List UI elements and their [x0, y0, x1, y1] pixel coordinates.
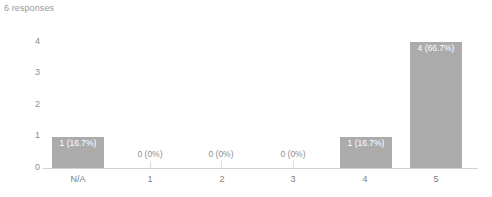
x-axis-label-2: 2	[196, 174, 248, 184]
bar-value-na: 1 (16.7%)	[52, 139, 104, 148]
x-axis-label-na: N/A	[52, 174, 104, 184]
x-axis-line	[43, 168, 478, 169]
bar-value-4: 1 (16.7%)	[340, 139, 392, 148]
chart-plot-area: 4 3 2 1 0 1 (16.7%) 0 (0%) 0 (0%) 0 (0%)…	[0, 0, 492, 197]
x-axis-label-5: 5	[410, 174, 462, 184]
bar-value-2: 0 (0%)	[185, 150, 257, 159]
x-axis-label-3: 3	[267, 174, 319, 184]
bar-chart-widget: 6 responses 4 3 2 1 0 1 (16.7%) 0 (0%) 0…	[0, 0, 492, 197]
y-axis-tick-2: 2	[18, 100, 40, 109]
bar-value-5: 4 (66.7%)	[410, 44, 462, 53]
bar-5	[410, 42, 462, 168]
y-axis-tick-4: 4	[18, 37, 40, 46]
x-axis-label-1: 1	[124, 174, 176, 184]
y-axis-tick-0: 0	[18, 163, 40, 172]
x-tick-mark-3	[293, 161, 294, 168]
bar-value-3: 0 (0%)	[257, 150, 329, 159]
x-tick-mark-2	[221, 161, 222, 168]
bar-value-1: 0 (0%)	[114, 150, 186, 159]
y-axis-tick-3: 3	[18, 68, 40, 77]
x-axis-label-4: 4	[339, 174, 391, 184]
y-axis-tick-1: 1	[18, 131, 40, 140]
x-tick-mark-1	[150, 161, 151, 168]
